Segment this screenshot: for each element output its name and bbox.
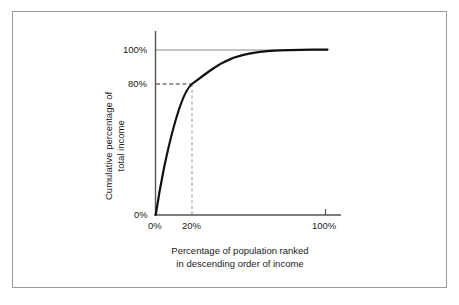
y-axis-title-line-1: Cumulative percentage of [103,92,115,200]
x-axis-title-line-2: in descending order of income [130,257,350,270]
y-axis-tick-label-80: 80% [128,79,147,89]
y-axis-tick-label-0: 0% [134,210,148,220]
figure-root: 100% 80% 0% 0% 20% 100% Cumulative perce… [0,0,459,305]
x-axis-title-line-1: Percentage of population ranked [130,244,350,257]
x-axis-tick-label-0: 0% [148,221,162,231]
x-axis-title: Percentage of population ranked in desce… [130,244,350,270]
cumulative-income-curve [156,50,328,215]
x-axis-tick-label-20: 20% [182,221,201,231]
x-axis-tick-label-100: 100% [312,221,336,231]
y-axis-title-line-2: total income [115,92,127,200]
y-axis-tick-label-100: 100% [123,45,147,55]
